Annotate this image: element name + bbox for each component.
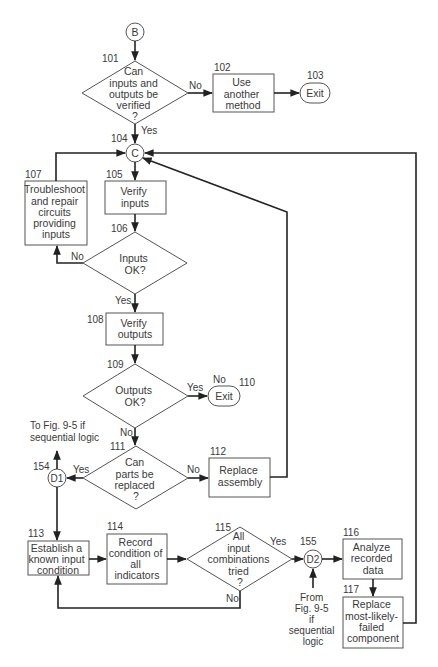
flowchart-canvas: B 101 Can inputs and outputs be verified… (0, 0, 438, 667)
svg-text:111: 111 (110, 441, 126, 452)
svg-text:Verify inputs: Verify inputs (120, 185, 149, 209)
svg-text:103: 103 (307, 70, 324, 81)
svg-text:Replace most-likely-: Replace most-likely- failed component (345, 598, 401, 644)
svg-text:106: 106 (111, 223, 128, 234)
connector-b: B (126, 23, 144, 41)
svg-text:112: 112 (210, 446, 226, 457)
svg-text:155: 155 (300, 536, 317, 547)
svg-text:Establish a known input: Establish a known input condition (29, 542, 88, 576)
svg-text:104: 104 (111, 133, 128, 144)
svg-text:Yes: Yes (141, 125, 157, 136)
svg-text:No: No (189, 80, 202, 91)
process-102: 102 Use another method (213, 62, 274, 112)
svg-text:D1: D1 (51, 473, 64, 484)
svg-text:Yes: Yes (187, 382, 203, 393)
connector-d1: 154 D1 (33, 461, 66, 487)
svg-text:Replace assembly: Replace assembly (218, 464, 263, 488)
svg-text:117: 117 (343, 584, 359, 595)
annotation-to-fig: To Fig. 9-5 if sequential logic (30, 420, 99, 443)
svg-text:Exit: Exit (306, 87, 324, 99)
svg-text:113: 113 (28, 528, 44, 539)
svg-text:Yes: Yes (270, 536, 286, 547)
svg-text:C: C (131, 147, 139, 159)
svg-text:No: No (213, 374, 226, 385)
decision-111: 111 Can parts be replaced ? (83, 441, 188, 509)
svg-text:110: 110 (239, 377, 255, 388)
process-113: 113 Establish a known input condition (28, 528, 89, 576)
svg-text:105: 105 (106, 169, 123, 180)
terminal-103-exit: 103 Exit (300, 70, 330, 103)
decision-109: 109 Outputs OK? (83, 359, 188, 428)
svg-text:102: 102 (214, 62, 231, 73)
svg-text:154: 154 (33, 461, 50, 472)
annotation-from-fig: From Fig. 9-5 if sequential logic (289, 592, 337, 647)
svg-text:107: 107 (25, 169, 42, 180)
svg-text:Yes: Yes (115, 295, 131, 306)
svg-text:101: 101 (102, 53, 119, 64)
decision-106: 106 Inputs OK? (83, 223, 187, 294)
process-116: 116 Analyze recorded data (343, 527, 402, 579)
svg-text:108: 108 (87, 314, 104, 325)
svg-text:No: No (120, 427, 133, 438)
svg-text:109: 109 (107, 359, 124, 370)
svg-text:Verify outputs: Verify outputs (118, 317, 152, 340)
svg-text:Yes: Yes (73, 464, 89, 475)
svg-text:114: 114 (107, 521, 123, 532)
svg-text:No: No (226, 593, 239, 604)
process-114: 114 Record condition of all indicators (107, 521, 167, 584)
svg-text:B: B (131, 26, 138, 38)
process-108: 108 Verify outputs (87, 313, 163, 345)
connector-c: 104 C (111, 133, 144, 162)
svg-text:No: No (187, 464, 200, 475)
process-112: 112 Replace assembly (209, 446, 270, 497)
connector-d2: 155 D2 (300, 536, 322, 568)
svg-text:D2: D2 (307, 554, 320, 565)
svg-text:All input combinat: All input combinations tried ? (208, 530, 273, 588)
svg-text:No: No (71, 251, 84, 262)
svg-text:116: 116 (343, 527, 359, 538)
svg-text:Exit: Exit (215, 390, 233, 402)
svg-text:115: 115 (215, 522, 231, 533)
decision-115: 115 All input combinations tried ? (187, 522, 292, 591)
decision-101: 101 Can inputs and outputs be verified ? (82, 53, 188, 124)
